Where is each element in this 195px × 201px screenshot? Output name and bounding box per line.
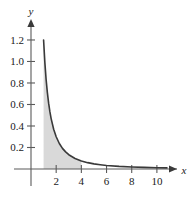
function-plot: 246810 0.20.40.60.81.01.2 x y xyxy=(0,0,195,201)
y-tick-label: 1.0 xyxy=(10,55,24,67)
y-axis-label: y xyxy=(28,5,34,17)
y-axis-arrow-icon xyxy=(27,19,34,27)
x-axis-arrow-icon xyxy=(169,165,177,172)
y-tick-label: 0.8 xyxy=(10,77,24,89)
chart-figure: 246810 0.20.40.60.81.01.2 x y xyxy=(0,0,195,201)
y-tick-label: 0.2 xyxy=(10,141,24,153)
x-tick-label: 6 xyxy=(104,175,110,187)
x-axis-label: x xyxy=(181,164,187,176)
y-tick-label: 0.4 xyxy=(10,120,24,132)
axes-group xyxy=(14,19,177,186)
y-tick-label: 1.2 xyxy=(10,34,24,46)
x-tick-label: 10 xyxy=(151,175,163,187)
function-curve xyxy=(44,40,167,168)
y-axis-tick-labels: 0.20.40.60.81.01.2 xyxy=(10,34,24,154)
x-tick-label: 2 xyxy=(53,175,59,187)
x-axis-tick-labels: 246810 xyxy=(53,175,162,187)
x-tick-label: 4 xyxy=(79,175,85,187)
x-tick-label: 8 xyxy=(129,175,135,187)
y-tick-label: 0.6 xyxy=(10,98,24,110)
